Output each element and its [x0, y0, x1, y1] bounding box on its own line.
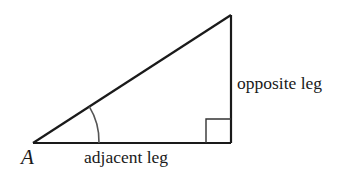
adjacent-leg-label: adjacent leg: [84, 147, 168, 167]
opposite-leg-label: opposite leg: [237, 73, 322, 93]
angle-arc-A: [89, 107, 99, 143]
right-triangle-diagram: A adjacent leg opposite leg: [0, 0, 353, 179]
right-angle-marker: [206, 119, 231, 143]
vertex-label-A: A: [19, 145, 34, 169]
hypotenuse-line: [33, 15, 231, 143]
